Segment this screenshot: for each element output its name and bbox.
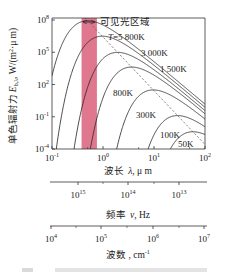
y-axis-label-unit: , W/(m [8,51,19,79]
secondary-tick-label: 107 [198,233,210,244]
curve-label-800k: 800K [113,88,134,98]
secondary-tick-label: 1014 [121,189,136,200]
visible-region-label: 可见光区域 [100,16,150,27]
wavenumber-axis-ticks: 104105106107 [45,226,210,244]
y-tick-label: 102 [37,79,49,90]
wavenumber-axis-label: 波数 , cm-1 [106,249,150,260]
y-axis-label-cn: 单色辐射力 [7,94,18,144]
y-tick-label: 105 [37,46,49,57]
y-axis-label: 单色辐射力Eb,λ, W/(m2·μ m) [7,28,19,144]
secondary-tick-label: 105 [95,233,107,244]
y-tick-label: 10-1 [35,111,49,122]
y-axis-label-unit-end: ·μ m) [8,28,19,49]
blackbody-spectrum-chart: 10-1100101102 10810510210-110-4 可见光区域 T=… [0,0,226,275]
secondary-tick-label: 104 [45,233,57,244]
secondary-tick-label: 106 [147,233,159,244]
curve-label-1500k: 1 500K [160,64,187,74]
x-tick-label: 102 [199,152,211,163]
figure-caption-faded [22,268,207,272]
frequency-axis-label-cn: 频率 [106,209,126,220]
x-axis-label-cn: 波长 [104,165,124,176]
y-tick-label: 108 [37,14,49,25]
wavenumber-axis-label-unit-sup: -1 [145,249,150,255]
x-tick-label: 101 [148,152,160,163]
curve-label-3000k: 3 000K [141,48,168,58]
wavenumber-axis-label-unit: , cm [126,250,145,260]
y-axis-label-subscript: b,λ [13,79,19,87]
wavenumber-axis-label-cn: 波数 [106,249,126,260]
curve-label-50k: 50K [178,139,194,149]
x-axis-label: 波长λ, μ m [104,165,152,176]
x-axis-label-unit: , μ m [132,166,152,176]
x-tick-label: 100 [97,152,109,163]
x-tick-label: 10-1 [45,152,59,163]
svg-text:单色辐射力Eb,λ, W/(m2·μ m): 单色辐射力Eb,λ, W/(m2·μ m) [7,28,19,144]
secondary-tick-label: 1013 [172,189,187,200]
frequency-axis-ticks: 101510141013 [71,182,187,200]
secondary-tick-label: 1015 [71,189,86,200]
frequency-axis-label-unit: , Hz [134,210,150,220]
frequency-axis-label: 频率ν, Hz [106,209,150,220]
curve-label-300k: 300K [136,110,157,120]
curve-label-5800k: T=5 800K [108,32,145,42]
